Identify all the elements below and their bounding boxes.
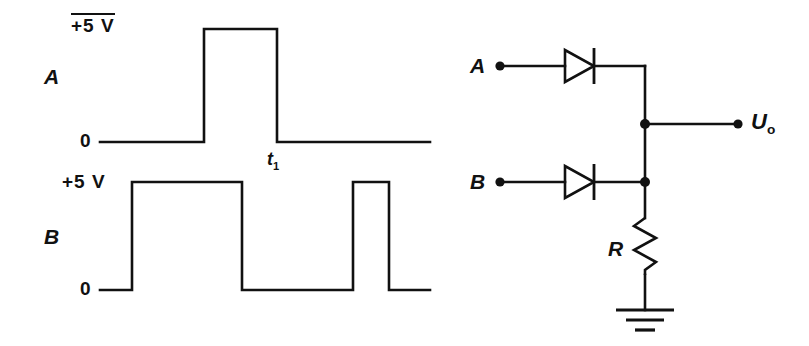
terminal-dot-b (495, 177, 504, 186)
circuit-input-b-label: B (470, 171, 485, 192)
junction-dot-output (640, 119, 650, 129)
waveform-a-name-label: A (44, 66, 59, 87)
circuit-wires (500, 66, 738, 310)
diode-b (565, 164, 594, 200)
figure-root: +5 V A 0 t1 +5 V B 0 A B Uo R (0, 0, 809, 346)
terminal-dot-output (733, 119, 742, 128)
waveform-b-name-label: B (44, 226, 59, 247)
waveform-b-high-label: +5 V (62, 172, 106, 191)
waveform-b-low-label: 0 (80, 279, 91, 298)
diode-a (565, 48, 594, 84)
time-marker-t1-label: t1 (267, 150, 279, 172)
figure-vector-layer (0, 0, 809, 346)
circuit-input-a-label: A (470, 55, 485, 76)
waveform-b-trace (100, 182, 430, 290)
circuit-output-label: Uo (751, 111, 775, 137)
resistor-label: R (608, 238, 623, 259)
waveform-a-high-label: +5 V (71, 13, 115, 35)
terminal-dot-a (495, 61, 504, 70)
ground-symbol (616, 310, 674, 330)
diode-b-triangle (565, 166, 594, 198)
resistor-symbol (634, 218, 656, 275)
junction-dot-b-bus (640, 177, 650, 187)
waveform-a-low-label: 0 (80, 131, 91, 150)
diode-a-triangle (565, 50, 594, 82)
waveform-a-trace (100, 29, 430, 142)
